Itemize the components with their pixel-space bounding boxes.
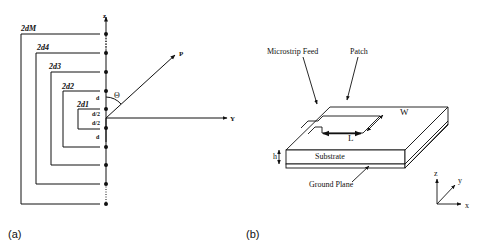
axis-y — [437, 185, 455, 204]
figure-canvas: z Y P Θ 2dM 2d4 2d3 2d2 2d1 d d/2 d/2 d — [0, 0, 485, 250]
observation-vector — [106, 55, 175, 118]
label-2d1: 2d1 — [76, 100, 89, 109]
z-axis-label: z — [103, 12, 106, 20]
panel-a-label: (a) — [8, 228, 21, 240]
antenna-array-diagram — [21, 17, 227, 205]
patch-label: Patch — [350, 47, 368, 56]
axis-y-label: y — [458, 176, 462, 185]
spacing-label-d2-lower: d/2 — [92, 120, 100, 126]
spacing-label-d2-upper: d/2 — [92, 111, 100, 117]
width-label: W — [400, 107, 409, 117]
substrate-label: Substrate — [315, 152, 345, 161]
bracket-2d3 — [51, 72, 100, 165]
feed-leader — [303, 57, 317, 104]
substrate-front-face — [286, 150, 405, 164]
height-label: h — [273, 152, 277, 161]
theta-label: Θ — [114, 91, 120, 100]
axis-z-label: z — [434, 169, 438, 178]
microstrip-feed-label: Microstrip Feed — [267, 47, 318, 56]
point-label: P — [179, 50, 184, 58]
label-2d2: 2d2 — [61, 82, 74, 91]
spacing-label-d-lower: d — [96, 134, 100, 140]
length-label: L — [348, 133, 354, 143]
axis-x-label: x — [465, 201, 469, 210]
ground-plane-front — [286, 164, 405, 168]
ground-plane-label: Ground Plane — [309, 180, 354, 189]
label-2dM: 2dM — [20, 24, 37, 33]
label-2d4: 2d4 — [36, 43, 49, 52]
bracket-2d4 — [36, 53, 100, 184]
y-axis-label: Y — [230, 115, 235, 123]
panel-b-label: (b) — [246, 228, 259, 240]
bracket-2dM — [21, 34, 100, 204]
spacing-label-d-upper: d — [96, 95, 100, 101]
label-2d3: 2d3 — [48, 62, 61, 71]
microstrip-antenna-diagram — [279, 57, 461, 204]
patch-leader — [347, 57, 358, 100]
